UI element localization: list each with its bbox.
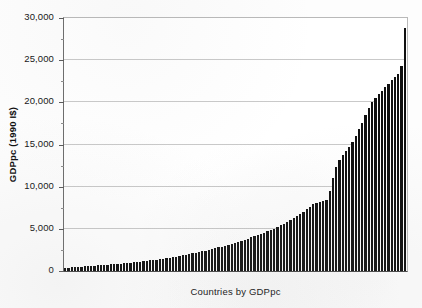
chart-figure: 05,00010,00015,00020,00025,00030,000 GDP… <box>0 0 422 308</box>
bar-series <box>64 18 407 271</box>
y-axis-title: GDPpc (1990 I$) <box>4 17 22 272</box>
bar <box>404 28 407 271</box>
y-tick-major <box>59 271 64 272</box>
x-axis-title: Countries by GDPpc <box>63 286 408 297</box>
y-axis-title-text: GDPpc (1990 I$) <box>8 107 19 182</box>
plot-area <box>63 17 408 272</box>
